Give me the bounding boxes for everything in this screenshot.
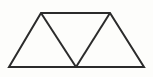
figure-canvas — [0, 0, 153, 77]
trapezoid-triangles-diagram — [0, 0, 153, 77]
